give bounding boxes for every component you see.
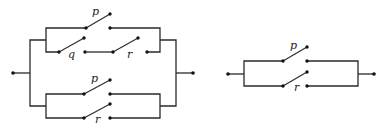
lower-group: p r [46, 72, 160, 126]
switch-label-p: p [92, 5, 99, 18]
switch-r: r [281, 70, 308, 94]
switch-label-q: q [68, 48, 75, 61]
left-circuit: p q r [11, 5, 195, 126]
switch-p-upper: p [84, 5, 111, 30]
switch-p-lower: p [82, 72, 111, 96]
switch-r-upper: r [111, 36, 148, 61]
switch-label-r: r [95, 113, 101, 126]
switch-r-lower: r [82, 102, 111, 126]
upper-group: p q r [46, 5, 160, 61]
right-terminal [191, 71, 195, 75]
switch-p: p [281, 39, 308, 63]
right-terminal [372, 72, 376, 76]
left-terminal [11, 71, 15, 75]
switch-label-p: p [290, 39, 297, 52]
switch-label-r: r [294, 81, 300, 94]
right-circuit: p r [226, 39, 376, 94]
circuit-diagram: p q r [0, 0, 387, 128]
switch-label-p: p [91, 72, 98, 85]
left-terminal [226, 72, 230, 76]
switch-q: q [57, 36, 86, 61]
switch-label-r: r [127, 48, 133, 61]
